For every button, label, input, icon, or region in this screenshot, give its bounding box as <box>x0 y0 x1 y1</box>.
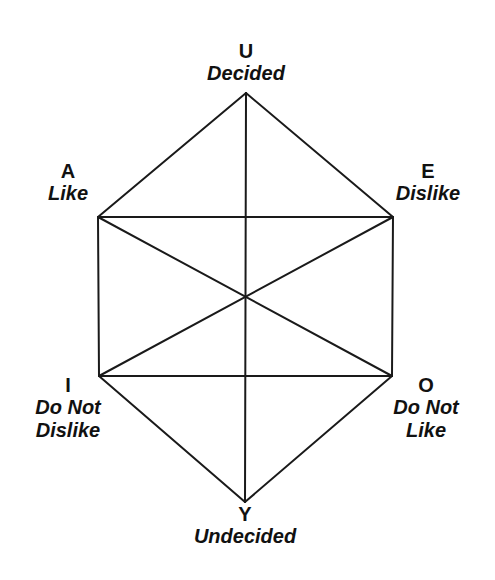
vertex-label-i: I Do Not Dislike <box>20 374 116 441</box>
hexagon-diagram: U Decided A Like E Dislike I Do Not Disl… <box>0 0 495 580</box>
vertex-meaning-o-line1: Do Not <box>378 396 474 418</box>
vertex-meaning-i-line1: Do Not <box>20 396 116 418</box>
vertex-label-a: A Like <box>28 160 108 205</box>
vertex-label-y: Y Undecided <box>170 503 320 548</box>
vertex-letter-a: A <box>28 160 108 182</box>
vertex-letter-o: O <box>378 374 474 396</box>
vertex-meaning-y: Undecided <box>170 525 320 547</box>
hexagon-lines <box>0 0 495 580</box>
edge-o-y <box>245 376 392 502</box>
vertex-letter-i: I <box>20 374 116 396</box>
edge-a-i <box>98 217 99 376</box>
vertex-label-u: U Decided <box>186 40 306 85</box>
vertex-meaning-a: Like <box>28 182 108 204</box>
vertex-letter-u: U <box>186 40 306 62</box>
vertex-label-e: E Dislike <box>378 160 478 205</box>
vertex-meaning-i-line2: Dislike <box>20 419 116 441</box>
vertex-letter-e: E <box>378 160 478 182</box>
edge-u-a <box>98 93 246 217</box>
edge-u-e <box>246 93 393 217</box>
vertex-label-o: O Do Not Like <box>378 374 474 441</box>
vertex-meaning-u: Decided <box>186 62 306 84</box>
edge-i-y <box>99 376 245 502</box>
edge-e-o <box>392 217 393 376</box>
vertex-meaning-o-line2: Like <box>378 419 474 441</box>
vertex-meaning-e: Dislike <box>378 182 478 204</box>
vertex-letter-y: Y <box>170 503 320 525</box>
